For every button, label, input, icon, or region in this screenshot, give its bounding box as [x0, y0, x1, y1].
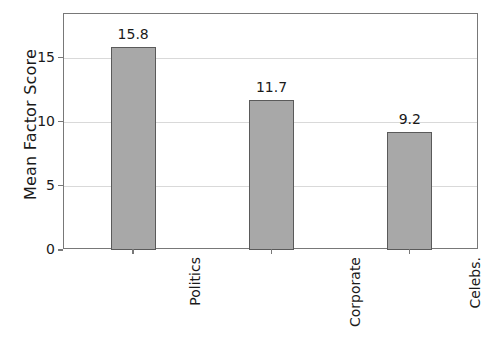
x-axis-tick-label: Politics: [187, 257, 203, 306]
y-axis-tick-label: 0: [15, 241, 55, 257]
y-axis-tick-mark: [58, 249, 63, 251]
x-axis-tick-mark: [271, 249, 273, 254]
y-axis-tick-label: 5: [15, 177, 55, 193]
x-axis-tick-label: Celebs.: [466, 257, 482, 309]
x-axis-tick-mark: [409, 249, 411, 254]
bar-chart-figure: Mean Factor Score 051015 15.811.79.2 Pol…: [0, 0, 494, 349]
x-axis-tick-mark: [132, 249, 134, 254]
x-axis-tick-label: Corporate: [347, 257, 363, 327]
plot-area: 15.811.79.2: [63, 13, 478, 249]
y-axis-tick-label: 15: [15, 49, 55, 65]
y-axis-tick-label: 10: [15, 113, 55, 129]
bar-value-label: 9.2: [399, 111, 421, 127]
bar: [111, 47, 156, 250]
bar: [249, 100, 294, 250]
bar-value-label: 15.8: [118, 26, 149, 42]
bar: [387, 132, 432, 250]
bar-value-label: 11.7: [256, 79, 287, 95]
